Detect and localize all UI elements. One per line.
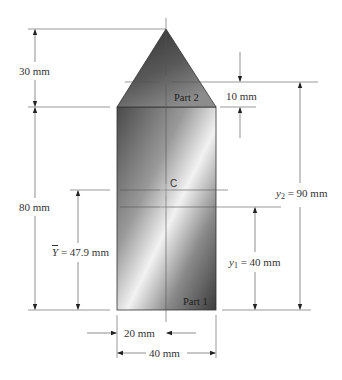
label-part2: Part 2 <box>174 92 199 104</box>
label-ybar: Y = 47.9 mm <box>52 246 109 258</box>
label-y2: y2 = 90 mm <box>276 187 327 203</box>
label-80mm: 80 mm <box>19 201 50 213</box>
label-40mm: 40 mm <box>149 347 180 359</box>
centroid-diagram: 30 mm 80 mm 10 mm Part 2 Part 1 C Y = 47… <box>0 0 342 380</box>
label-part1: Part 1 <box>183 296 208 308</box>
label-30mm: 30 mm <box>19 65 50 77</box>
part2-triangle <box>117 29 216 107</box>
label-20mm: 20 mm <box>124 327 155 339</box>
label-centroid-c: C <box>170 178 177 190</box>
label-10mm: 10 mm <box>226 90 257 102</box>
ybar-value: = 47.9 mm <box>58 246 109 258</box>
label-y1: y1 = 40 mm <box>229 256 280 272</box>
